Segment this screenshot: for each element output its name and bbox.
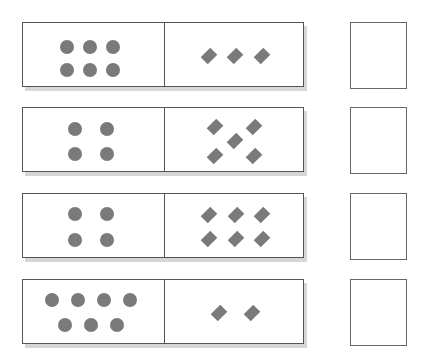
diamond-icon [201, 207, 218, 224]
diamonds-panel [164, 280, 303, 343]
circle-icon [60, 40, 74, 54]
circles-panel [23, 194, 165, 257]
circle-icon [100, 207, 114, 221]
circle-icon [83, 63, 97, 77]
circle-icon [45, 293, 59, 307]
comparison-row-2 [22, 107, 304, 172]
diamond-icon [254, 48, 271, 65]
circle-icon [60, 63, 74, 77]
diamond-icon [228, 207, 245, 224]
diamond-icon [207, 148, 224, 165]
diamond-icon [244, 305, 261, 322]
circle-icon [71, 293, 85, 307]
diamonds-panel [164, 194, 303, 257]
circles-panel [23, 280, 165, 343]
circle-icon [106, 40, 120, 54]
comparison-row-3 [22, 193, 304, 258]
circles-panel [23, 108, 165, 171]
answer-box-1[interactable] [350, 22, 407, 89]
diamond-icon [246, 119, 263, 136]
comparison-row-4 [22, 279, 304, 344]
answer-box-4[interactable] [350, 279, 407, 346]
diamond-icon [211, 305, 228, 322]
diamond-icon [246, 148, 263, 165]
circle-icon [84, 318, 98, 332]
circle-icon [97, 293, 111, 307]
diamond-icon [254, 207, 271, 224]
circle-icon [68, 122, 82, 136]
circles-panel [23, 23, 165, 86]
diamonds-panel [164, 23, 303, 86]
comparison-row-1 [22, 22, 304, 87]
circle-icon [100, 122, 114, 136]
diamond-icon [227, 48, 244, 65]
answer-box-2[interactable] [350, 107, 407, 174]
circle-icon [106, 63, 120, 77]
diamond-icon [228, 231, 245, 248]
answer-box-3[interactable] [350, 193, 407, 260]
circle-icon [83, 40, 97, 54]
circle-icon [100, 233, 114, 247]
circle-icon [68, 233, 82, 247]
circle-icon [58, 318, 72, 332]
circle-icon [68, 147, 82, 161]
circle-icon [68, 207, 82, 221]
diamond-icon [254, 231, 271, 248]
circle-icon [110, 318, 124, 332]
diamond-icon [201, 48, 218, 65]
diamond-icon [227, 133, 244, 150]
diamond-icon [201, 231, 218, 248]
circle-icon [100, 147, 114, 161]
diamond-icon [207, 119, 224, 136]
circle-icon [123, 293, 137, 307]
diamonds-panel [164, 108, 303, 171]
